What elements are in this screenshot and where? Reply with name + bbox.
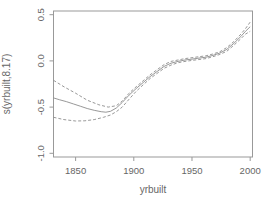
x-tick-label: 1900 [123, 165, 144, 176]
y-axis: 0.50.0-0.5-1.0 [35, 8, 54, 161]
smooth-curves [54, 22, 251, 121]
x-tick-label: 2000 [240, 165, 261, 176]
ci-upper-line [54, 22, 251, 107]
gam-smooth-plot-figure: 1850190019502000 0.50.0-0.5-1.0 yrbuilt … [0, 0, 266, 210]
y-axis-title: s(yrbuilt,8.17) [1, 54, 12, 115]
x-tick-label: 1850 [65, 165, 86, 176]
plot-box [54, 11, 253, 157]
y-tick-label: 0.5 [35, 8, 46, 21]
y-tick-label: 0.0 [35, 54, 46, 67]
smooth-fit-line [54, 27, 251, 113]
x-tick-label: 1950 [181, 165, 202, 176]
plot-canvas: 1850190019502000 0.50.0-0.5-1.0 yrbuilt … [0, 0, 266, 210]
y-tick-label: -0.5 [35, 99, 46, 115]
y-tick-label: -1.0 [35, 145, 46, 161]
plot-frame [54, 11, 253, 157]
x-axis: 1850190019502000 [65, 157, 261, 176]
x-axis-title: yrbuilt [140, 184, 167, 195]
